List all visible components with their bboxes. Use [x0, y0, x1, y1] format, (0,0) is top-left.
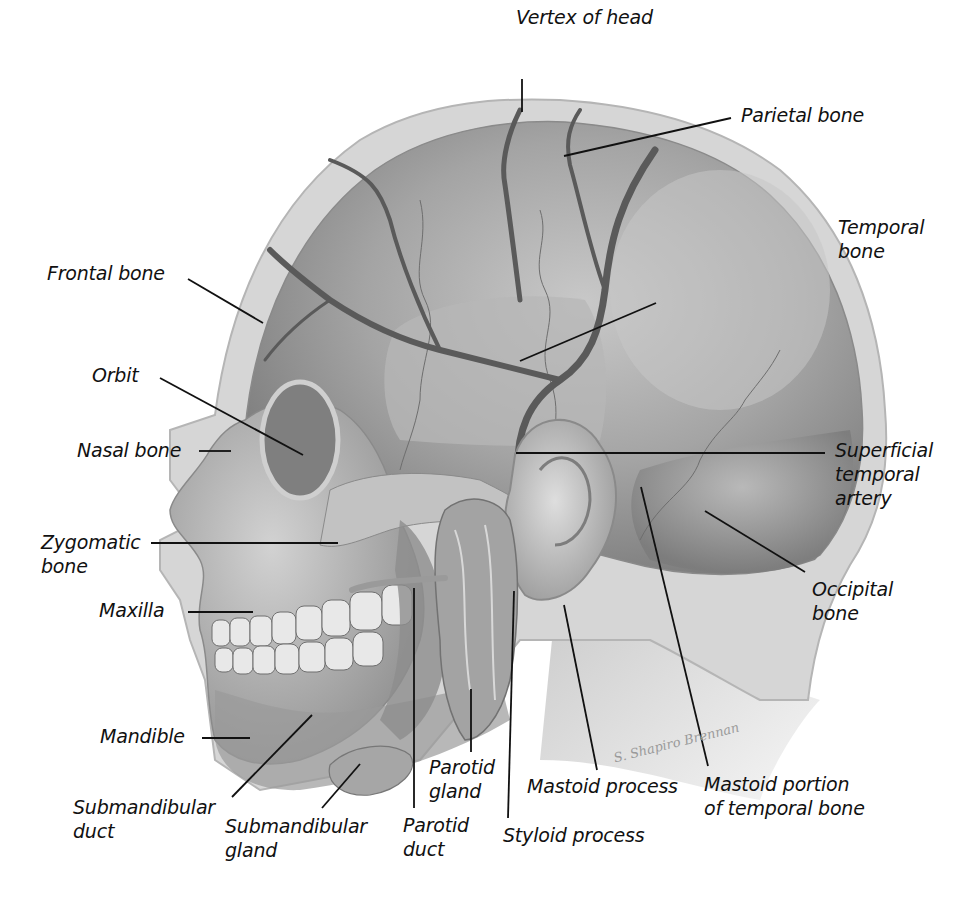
label-styloid-process: Styloid process [503, 823, 644, 847]
anatomy-figure: Vertex of head Parietal bone Temporal bo… [0, 0, 971, 911]
label-mastoid-portion-of-temporal-bone: Mastoid portion of temporal bone [704, 772, 865, 820]
label-submandibular-duct: Submandibular duct [73, 795, 215, 843]
label-zygomatic-bone: Zygomatic bone [41, 530, 140, 578]
label-parietal-bone: Parietal bone [741, 103, 864, 127]
label-frontal-bone: Frontal bone [47, 261, 165, 285]
label-orbit: Orbit [92, 363, 139, 387]
label-submandibular-gland: Submandibular gland [225, 814, 367, 862]
label-temporal-bone: Temporal bone [838, 215, 924, 263]
label-superficial-temporal-artery: Superficial temporal artery [835, 438, 933, 510]
label-parotid-gland: Parotid gland [429, 755, 495, 803]
label-occipital-bone: Occipital bone [812, 577, 893, 625]
label-maxilla: Maxilla [99, 598, 164, 622]
label-mastoid-process: Mastoid process [527, 774, 678, 798]
label-vertex-of-head: Vertex of head [516, 5, 653, 29]
label-parotid-duct: Parotid duct [403, 813, 469, 861]
label-mandible: Mandible [100, 724, 185, 748]
label-nasal-bone: Nasal bone [77, 438, 181, 462]
